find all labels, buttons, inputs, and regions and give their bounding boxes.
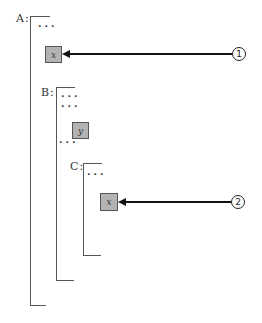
frame-a-variable-box: x	[45, 46, 62, 63]
frame-c-ellipsis: ...	[87, 169, 106, 175]
frame-c-bracket-bottom	[83, 255, 101, 256]
callout-2-marker: 2	[231, 195, 245, 209]
frame-b-ellipsis-2: ...	[61, 101, 80, 107]
arrow-2-line	[124, 201, 231, 203]
frame-a-bracket-top	[30, 16, 50, 17]
frame-c-label: C:	[70, 161, 84, 172]
frame-b-ellipsis-1: ...	[61, 91, 80, 97]
frame-b-bracket-bottom	[56, 280, 74, 281]
frame-b-ellipsis-after: ...	[59, 137, 78, 143]
frame-c-variable-box: x	[100, 193, 118, 211]
frame-a-label: A:	[16, 13, 30, 24]
arrow-1-line	[68, 53, 232, 55]
frame-b-label: B:	[41, 87, 55, 98]
frame-c-bracket-vertical	[83, 163, 84, 256]
frame-c-bracket-top	[83, 163, 102, 164]
frame-b-bracket-vertical	[56, 87, 57, 281]
frame-a-bracket-bottom	[30, 305, 46, 306]
callout-1-marker: 1	[232, 47, 246, 61]
frame-a-bracket-vertical	[30, 16, 31, 306]
frame-a-ellipsis: ...	[38, 21, 57, 27]
